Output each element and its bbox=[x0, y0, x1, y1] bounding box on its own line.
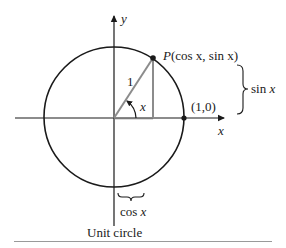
sin-var: x bbox=[269, 81, 275, 96]
x-axis-label: x bbox=[218, 124, 224, 137]
figure-caption: Unit circle bbox=[87, 225, 142, 241]
point-p-label: P(cos x, sin x) bbox=[163, 49, 238, 62]
sin-func: sin bbox=[251, 81, 266, 96]
cos-var: x bbox=[141, 204, 147, 219]
angle-label: x bbox=[140, 100, 146, 113]
cos-func: cos bbox=[120, 204, 137, 219]
point-p-coords: (cos x, sin x) bbox=[171, 48, 238, 63]
point-p-dot bbox=[150, 55, 156, 61]
cos-brace-label: cos x bbox=[120, 205, 146, 218]
point-one-zero-dot bbox=[181, 115, 186, 120]
radius-label: 1 bbox=[127, 75, 134, 88]
point-one-zero-label: (1,0) bbox=[191, 100, 216, 113]
cos-brace bbox=[118, 193, 144, 201]
y-axis-label: y bbox=[121, 12, 127, 25]
angle-arc bbox=[127, 101, 136, 118]
sin-brace-label: sin x bbox=[251, 82, 275, 95]
bottom-rule bbox=[14, 241, 272, 242]
sin-brace bbox=[237, 65, 248, 114]
point-p-name: P bbox=[163, 48, 171, 63]
